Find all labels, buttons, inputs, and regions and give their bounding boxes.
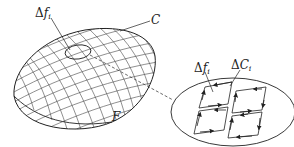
label-c: C (151, 13, 160, 27)
label-zoom-delta-f-i: Δfi (194, 61, 210, 76)
label-zoom-delta-c-i: ΔCi (231, 58, 252, 73)
cell-bottom-left (194, 107, 228, 134)
diagram-canvas: Δfi C F Δfi ΔCi (0, 0, 294, 147)
c-leader-line (120, 21, 150, 31)
surface-f (0, 12, 170, 147)
delta-f-leader-line (51, 18, 70, 50)
zoomed-element (171, 70, 294, 146)
cell-top-left (199, 82, 232, 108)
surface-lower-edge (14, 96, 112, 124)
label-f: F (111, 110, 121, 124)
label-delta-f-i: Δfi (35, 6, 51, 21)
cell-top-right (232, 87, 266, 113)
surface-mesh (0, 12, 170, 147)
cell-bottom-right (228, 112, 262, 138)
